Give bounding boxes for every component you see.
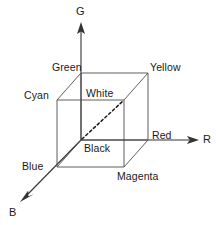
- axis-lines: [20, 22, 199, 202]
- axis-b-arrowhead: [20, 191, 34, 202]
- vertex-label-blue: Blue: [22, 161, 43, 172]
- edge-red-magenta: [124, 140, 148, 167]
- edge-yellow-white: [124, 73, 148, 100]
- vertex-label-cyan: Cyan: [24, 90, 49, 101]
- vertex-label-white: White: [86, 88, 113, 99]
- cube-drawing: [0, 0, 216, 225]
- edge-green-cyan: [57, 73, 81, 100]
- grayscale-diagonal: [82, 101, 123, 139]
- vertex-label-magenta: Magenta: [117, 171, 159, 182]
- axis-label-b: B: [9, 207, 16, 218]
- axis-label-r: R: [203, 134, 211, 145]
- vertex-label-green: Green: [52, 62, 82, 73]
- axis-label-g: G: [76, 6, 85, 17]
- vertex-label-black: Black: [84, 143, 110, 154]
- edge-black-blue: [57, 140, 81, 167]
- vertex-label-red: Red: [152, 130, 172, 141]
- rgb-color-cube-figure: Green Yellow Cyan White Red Black Blue M…: [0, 0, 216, 225]
- vertex-label-yellow: Yellow: [150, 62, 181, 73]
